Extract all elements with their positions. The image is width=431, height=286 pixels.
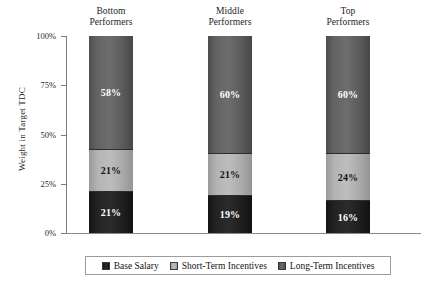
bar-segment-value-label: 21% [101,165,122,176]
legend-swatch-long-term-icon [278,262,286,270]
bar-segment-value-label: 21% [101,207,122,218]
y-axis-tick-mark [61,135,66,136]
y-axis-tick-label: 0% [18,228,56,238]
bar-segment-value-label: 24% [338,172,359,183]
bar-segment-value-label: 21% [220,169,241,180]
category-header-line1: Middle [170,6,290,17]
stacked-bar-chart: Bottom Performers Middle Performers Top … [0,0,431,286]
y-axis-tick-mark [61,233,66,234]
bar-segment-value-label: 60% [338,89,359,100]
category-header-line1: Top [288,6,408,17]
chart-legend: Base Salary Short-Term Incentives Long-T… [85,256,391,275]
y-axis-tick-label: 25% [18,179,56,189]
y-axis-tick-mark [61,36,66,37]
bar-column-2: 16%24%60% [326,36,370,233]
bar-segment-long-term-incentives[interactable]: 60% [326,36,370,154]
y-axis-tick-mark [61,85,66,86]
bar-segment-value-label: 19% [220,209,241,220]
y-axis-tick-label: 50% [18,130,56,140]
legend-label-short-term-incentives: Short-Term Incentives [182,261,267,271]
bar-segment-base-salary[interactable]: 21% [89,192,133,233]
category-header-line2: Performers [170,17,290,28]
x-axis-line [66,233,421,234]
bar-segment-value-label: 16% [338,212,359,223]
y-axis-ticks: 0%25%50%75%100% [0,0,60,286]
bar-segment-base-salary[interactable]: 16% [326,201,370,233]
bar-segment-short-term-incentives[interactable]: 24% [326,154,370,201]
category-header-line1: Bottom [51,6,171,17]
category-header-top-performers: Top Performers [288,6,408,27]
legend-label-long-term-incentives: Long-Term Incentives [290,261,375,271]
category-header-bottom-performers: Bottom Performers [51,6,171,27]
category-header-line2: Performers [288,17,408,28]
category-header-line2: Performers [51,17,171,28]
legend-swatch-short-term-icon [170,262,178,270]
legend-item-base-salary[interactable]: Base Salary [102,261,159,271]
y-axis-tick-label: 75% [18,80,56,90]
bar-segment-value-label: 58% [101,87,122,98]
bar-segment-long-term-incentives[interactable]: 58% [89,36,133,150]
bar-segment-short-term-incentives[interactable]: 21% [208,154,252,195]
y-axis-line [66,36,67,234]
bar-segment-base-salary[interactable]: 19% [208,196,252,233]
legend-label-base-salary: Base Salary [114,261,159,271]
category-header-middle-performers: Middle Performers [170,6,290,27]
bar-column-1: 19%21%60% [208,36,252,233]
bar-segment-value-label: 60% [220,89,241,100]
legend-item-short-term-incentives[interactable]: Short-Term Incentives [170,261,267,271]
bar-segment-short-term-incentives[interactable]: 21% [89,150,133,191]
legend-item-long-term-incentives[interactable]: Long-Term Incentives [278,261,375,271]
bar-segment-long-term-incentives[interactable]: 60% [208,36,252,154]
y-axis-tick-label: 100% [18,31,56,41]
legend-swatch-base-salary-icon [102,262,110,270]
y-axis-tick-mark [61,184,66,185]
bar-column-0: 21%21%58% [89,36,133,233]
